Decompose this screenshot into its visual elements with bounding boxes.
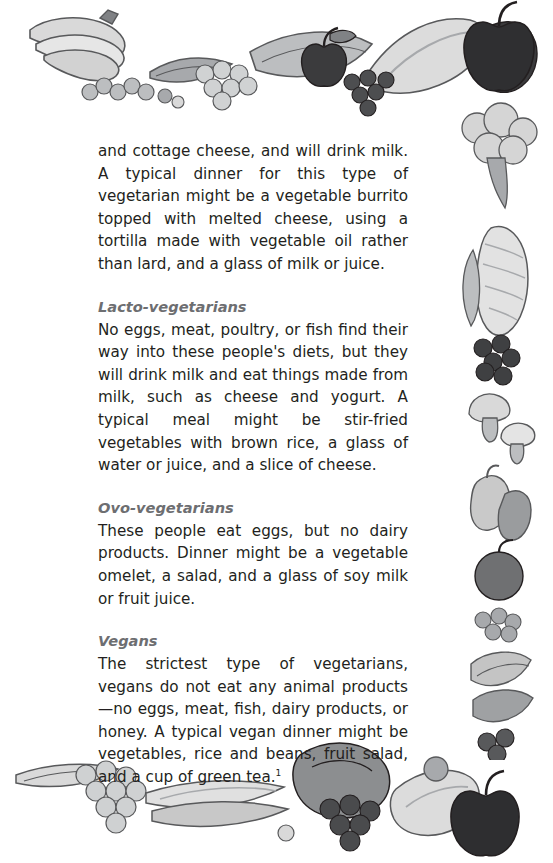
section-paragraph-text: The strictest type of vegetarians, vegan… bbox=[98, 655, 408, 786]
section-lacto-vegetarians: Lacto-vegetarians No eggs, meat, poultry… bbox=[98, 296, 408, 477]
fruit-and-vegetable-border-top bbox=[0, 0, 553, 135]
section-paragraph: No eggs, meat, poultry, or fish find the… bbox=[98, 319, 408, 477]
section-heading: Ovo-vegetarians bbox=[98, 497, 408, 518]
article-text-column: and cottage cheese, and will drink milk.… bbox=[98, 140, 408, 789]
footnote-reference: 1 bbox=[276, 768, 282, 778]
section-paragraph: These people eat eggs, but no dairy prod… bbox=[98, 520, 408, 610]
fruit-and-vegetable-border-right bbox=[443, 0, 553, 760]
document-page: and cottage cheese, and will drink milk.… bbox=[0, 0, 553, 863]
intro-paragraph: and cottage cheese, and will drink milk.… bbox=[98, 140, 408, 276]
section-ovo-vegetarians: Ovo-vegetarians These people eat eggs, b… bbox=[98, 497, 408, 610]
section-vegans: Vegans The strictest type of vegetarians… bbox=[98, 630, 408, 789]
section-heading: Vegans bbox=[98, 630, 408, 651]
section-heading: Lacto-vegetarians bbox=[98, 296, 408, 317]
section-paragraph: The strictest type of vegetarians, vegan… bbox=[98, 653, 408, 789]
